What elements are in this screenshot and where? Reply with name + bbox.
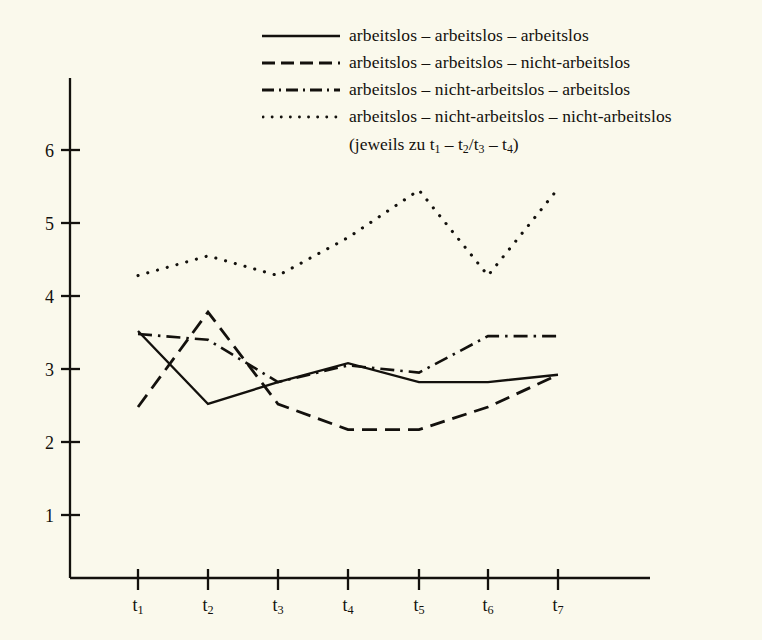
series-line-dashdot [138,334,558,382]
chart-plot-area [0,0,762,640]
series-line-solid [138,331,558,404]
figure-container: arbeitslos – arbeitslos – arbeitslos arb… [0,0,762,640]
axis-lines [70,78,650,578]
series-line-dashed [138,312,558,430]
x-axis-ticks [138,569,558,590]
series-line-dotted [138,189,558,276]
